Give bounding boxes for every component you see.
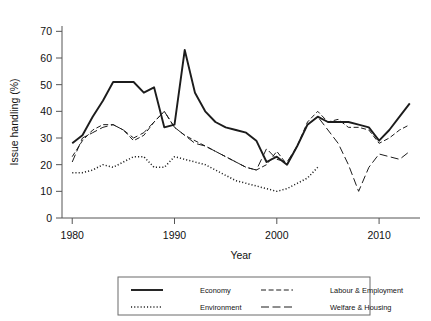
chart-background (0, 0, 431, 321)
chart-legend: EconomyLabour & EmploymentEnvironmentWel… (118, 277, 403, 315)
x-axis-title: Year (230, 249, 252, 261)
y-axis-title: Issue handling (%) (8, 79, 20, 166)
y-tick-label: 60 (40, 52, 52, 64)
legend-label: Environment (200, 303, 242, 312)
y-tick-label: 20 (40, 159, 52, 171)
y-tick-label: 50 (40, 79, 52, 91)
issue-handling-line-chart: 010203040506070 Issue handling (%) 19801… (0, 0, 431, 321)
x-tick-label: 2000 (265, 229, 289, 241)
x-tick-label: 1980 (61, 229, 85, 241)
y-tick-label: 70 (40, 25, 52, 37)
legend-label: Economy (200, 286, 231, 295)
legend-label: Labour & Employment (330, 286, 403, 295)
chart-figure: 010203040506070 Issue handling (%) 19801… (0, 0, 431, 321)
legend-label: Welfare & Housing (330, 303, 391, 312)
y-tick-label: 30 (40, 132, 52, 144)
y-tick-label: 10 (40, 185, 52, 197)
y-tick-label: 0 (46, 212, 52, 224)
x-tick-label: 2010 (367, 229, 391, 241)
x-tick-label: 1990 (163, 229, 187, 241)
y-tick-label: 40 (40, 105, 52, 117)
